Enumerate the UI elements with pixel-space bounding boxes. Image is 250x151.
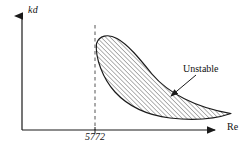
y-axis-label: kd (28, 4, 38, 15)
unstable-leader-arrow (171, 75, 196, 96)
x-axis-label: Re (227, 121, 238, 132)
diagram-canvas (0, 0, 250, 151)
unstable-region-label: Unstable (183, 63, 219, 74)
stability-diagram-figure: kd Re 5772 Unstable (0, 0, 250, 151)
x-tick-label-5772: 5772 (74, 131, 116, 142)
unstable-region (96, 36, 231, 119)
